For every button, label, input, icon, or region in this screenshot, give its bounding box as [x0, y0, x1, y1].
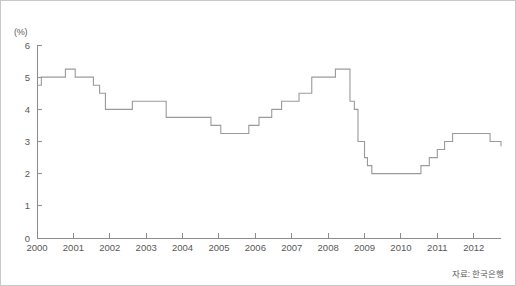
x-tick-label: 2000	[26, 242, 47, 253]
x-tick-label: 2005	[208, 242, 229, 253]
y-tick-label: 1	[25, 200, 30, 211]
axis-lines	[37, 45, 501, 238]
x-tick-label: 2003	[136, 242, 157, 253]
x-tick-label: 2004	[172, 242, 193, 253]
line-chart-plot: 0123456 20002001200220032004200520062007…	[1, 1, 516, 286]
x-tick-label: 2007	[281, 242, 302, 253]
x-tick-label: 2001	[63, 242, 84, 253]
chart-figure: (%) 0123456 2000200120022003200420052006…	[0, 0, 516, 286]
x-tick-label: 2012	[463, 242, 484, 253]
x-tick-label: 2006	[245, 242, 266, 253]
source-note: 자료: 한국은행	[452, 267, 504, 279]
y-tick-label: 5	[25, 72, 30, 83]
series-line-base-rate	[37, 69, 501, 174]
x-axis-ticks: 2000200120022003200420052006200720082009…	[26, 233, 484, 253]
x-tick-label: 2008	[318, 242, 339, 253]
y-tick-label: 3	[25, 136, 30, 147]
x-tick-label: 2010	[390, 242, 411, 253]
x-tick-label: 2009	[354, 242, 375, 253]
x-tick-label: 2011	[427, 242, 447, 253]
y-axis-ticks: 0123456	[25, 40, 42, 244]
x-tick-label: 2002	[99, 242, 120, 253]
y-tick-label: 4	[25, 104, 30, 115]
y-tick-label: 2	[25, 168, 30, 179]
y-tick-label: 6	[25, 40, 30, 51]
